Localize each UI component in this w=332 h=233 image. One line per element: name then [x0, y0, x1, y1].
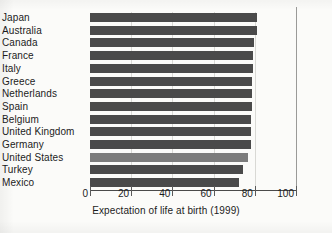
x-axis-tick-label: 20 [118, 188, 131, 199]
plot-right-frame-line [296, 7, 297, 191]
bar [90, 77, 252, 86]
bar [90, 153, 248, 162]
bar [90, 26, 257, 35]
x-axis-tick [255, 186, 256, 196]
x-axis-title: Expectation of life at birth (1999) [0, 205, 332, 216]
x-axis-tick-label: 60 [200, 188, 213, 199]
category-label: Netherlands [2, 88, 81, 100]
gridline [255, 12, 256, 190]
category-label: United States [2, 152, 81, 164]
bar [90, 102, 252, 111]
bar [90, 89, 252, 98]
x-axis-tick [131, 186, 132, 196]
x-axis-tick-label: 40 [159, 188, 172, 199]
x-axis-tick [90, 186, 91, 196]
category-label: United Kingdom [2, 126, 81, 138]
bar [90, 140, 251, 149]
category-label: Belgium [2, 114, 81, 126]
bar [90, 165, 243, 174]
category-label: Italy [2, 63, 81, 75]
x-axis-tick-label: 0 [82, 188, 90, 199]
bar [90, 13, 257, 22]
x-axis-tick [214, 186, 215, 196]
category-label: France [2, 50, 81, 62]
category-label: Canada [2, 37, 81, 49]
category-label: Mexico [2, 177, 81, 189]
bar [90, 115, 251, 124]
x-axis-tick-label: 80 [242, 188, 255, 199]
bar [90, 127, 251, 136]
x-axis-tick-label: 100 [277, 188, 296, 199]
category-label: Germany [2, 139, 81, 151]
category-label: Australia [2, 25, 81, 37]
bar [90, 178, 239, 187]
category-label: Greece [2, 76, 81, 88]
bar [90, 51, 253, 60]
life-expectancy-bar-chart: JapanAustraliaCanadaFranceItalyGreeceNet… [0, 0, 332, 233]
bar [90, 64, 253, 73]
x-axis-tick [172, 186, 173, 196]
plot-area: JapanAustraliaCanadaFranceItalyGreeceNet… [0, 0, 332, 233]
category-label: Spain [2, 101, 81, 113]
bar [90, 38, 254, 47]
category-label: Turkey [2, 164, 81, 176]
category-label: Japan [2, 12, 81, 24]
x-axis-tick [296, 186, 297, 196]
bars-container [90, 12, 296, 190]
category-axis-labels: JapanAustraliaCanadaFranceItalyGreeceNet… [0, 12, 86, 190]
